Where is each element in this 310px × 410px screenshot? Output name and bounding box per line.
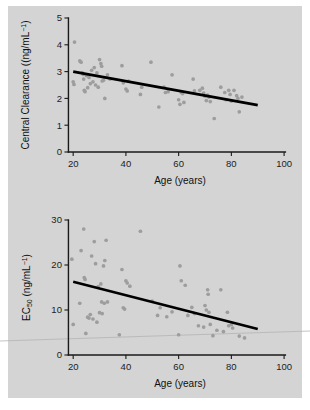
scatter-data-point	[79, 249, 83, 253]
y-axis-tick-label: 1	[57, 120, 62, 131]
y-axis-tick-label: 20	[51, 259, 62, 270]
scatter-data-point	[87, 316, 91, 320]
scatter-data-point	[226, 310, 230, 314]
scatter-data-point	[82, 77, 86, 81]
figure-container: 01234520406080100Age (years)Central Clea…	[0, 0, 310, 410]
scatter-data-point	[177, 333, 181, 337]
scatter-data-point	[203, 304, 207, 308]
scatter-data-point	[237, 110, 241, 114]
scatter-data-point	[123, 307, 127, 311]
scatter-data-point	[207, 310, 211, 314]
x-axis-title: Age (years)	[154, 378, 206, 389]
scatter-data-point	[95, 320, 99, 324]
scatter-data-point	[73, 40, 77, 44]
x-axis-tick-label: 80	[226, 361, 237, 372]
scatter-data-point	[165, 315, 169, 319]
x-axis-tick-label: 20	[68, 361, 79, 372]
scatter-data-point	[222, 330, 226, 334]
scatter-data-point	[149, 60, 153, 64]
y-axis-tick-label: 0	[57, 349, 62, 360]
y-axis-tick-label: 30	[51, 214, 62, 225]
scatter-data-point	[157, 105, 161, 109]
scatter-data-point	[100, 312, 104, 316]
scatter-data-point	[102, 78, 106, 82]
scatter-data-point	[140, 85, 144, 89]
scatter-data-point	[120, 268, 124, 272]
scatter-data-point	[92, 66, 96, 70]
scatter-data-point	[177, 98, 181, 102]
scatter-data-point	[91, 80, 95, 84]
x-axis-tick-label: 100	[276, 158, 292, 169]
regression-fit-line	[73, 72, 258, 106]
scatter-data-point	[83, 278, 87, 282]
scatter-data-point	[219, 85, 223, 89]
scatter-data-point	[237, 334, 241, 338]
y-axis-tick-label: 10	[51, 304, 62, 315]
scatter-data-point	[102, 301, 106, 305]
scatter-data-point	[103, 259, 107, 263]
x-axis-tick-label: 60	[173, 158, 184, 169]
scatter-data-point	[170, 73, 174, 77]
scatter-data-point	[92, 240, 96, 244]
scatter-data-point	[117, 333, 121, 337]
scatter-data-point	[125, 281, 129, 285]
scatter-data-point	[88, 313, 92, 317]
scatter-data-point	[128, 284, 132, 288]
x-axis-tick-label: 60	[173, 361, 184, 372]
scatter-data-point	[170, 310, 174, 314]
scatter-data-point	[206, 292, 210, 296]
y-axis-tick-label: 3	[57, 66, 62, 77]
scatter-data-point	[96, 85, 100, 89]
scatter-data-point	[95, 71, 99, 75]
scatter-data-point	[219, 288, 223, 292]
scatter-data-point	[191, 77, 195, 81]
scan-artifact-line	[0, 331, 310, 341]
scatter-data-point	[125, 89, 129, 93]
scatter-data-point	[87, 76, 91, 80]
y-axis-tick-label: 0	[57, 146, 62, 157]
y-axis-tick-label: 5	[57, 12, 62, 23]
scatter-data-point	[90, 68, 94, 72]
y-axis-title: Central Clearance ((ng/mL−1)	[20, 20, 31, 149]
scatter-data-point	[236, 97, 240, 101]
scatter-data-point	[183, 283, 187, 287]
y-axis-title: EC50 (ng/mL−1)	[21, 254, 33, 321]
scatter-data-point	[190, 305, 194, 309]
scatter-data-point	[139, 229, 143, 233]
scatter-data-point	[83, 90, 87, 94]
chart-panel-ec50: 010203020406080100Age (years)EC50 (ng/mL…	[0, 200, 310, 410]
x-axis-tick-label: 40	[121, 158, 132, 169]
scatter-data-point	[158, 306, 162, 310]
scatter-data-point	[202, 325, 206, 329]
scatter-data-point	[91, 317, 95, 321]
scatter-data-point	[223, 91, 227, 95]
scatter-data-point	[79, 60, 83, 64]
regression-fit-line	[73, 282, 258, 329]
scatter-data-point	[106, 73, 110, 77]
scatter-data-point	[243, 336, 247, 340]
scatter-data-point	[78, 301, 82, 305]
scatter-data-point	[208, 100, 212, 104]
scatter-data-point	[178, 102, 182, 106]
scatter-data-point	[156, 314, 160, 318]
scatter-data-point	[100, 64, 104, 68]
scatter-data-point	[206, 288, 210, 292]
scatter-data-point	[182, 101, 186, 105]
scatter-data-point	[240, 95, 244, 99]
scatter-data-point	[212, 117, 216, 121]
scatter-data-point	[227, 89, 231, 93]
scatter-data-point	[215, 328, 219, 332]
central-clearance-scatter-plot: 01234520406080100Age (years)Central Clea…	[0, 0, 310, 200]
scatter-data-point	[84, 332, 88, 336]
scatter-data-point	[72, 83, 76, 87]
scatter-data-point	[99, 282, 103, 286]
x-axis-tick-label: 40	[121, 361, 132, 372]
scatter-data-point	[98, 58, 102, 62]
scatter-data-point	[90, 254, 94, 258]
scatter-data-point	[104, 238, 108, 242]
scatter-data-point	[231, 326, 235, 330]
scatter-data-point	[179, 279, 183, 283]
y-axis-tick-label: 4	[57, 39, 62, 50]
scatter-data-point	[106, 300, 110, 304]
x-axis-tick-label: 100	[276, 361, 292, 372]
